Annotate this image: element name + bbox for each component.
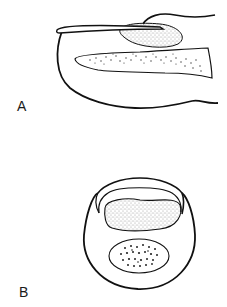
- panel-a-drawing: [57, 14, 218, 108]
- panel-label-a: A: [17, 99, 26, 113]
- figure-drawing: [0, 0, 227, 307]
- panel-a-top-outline: [143, 14, 215, 24]
- panel-label-b: B: [19, 285, 28, 299]
- panel-b-stippled-blob: [105, 199, 181, 231]
- panel-b-dotted-oval: [109, 239, 169, 273]
- panel-b-drawing: [84, 178, 195, 289]
